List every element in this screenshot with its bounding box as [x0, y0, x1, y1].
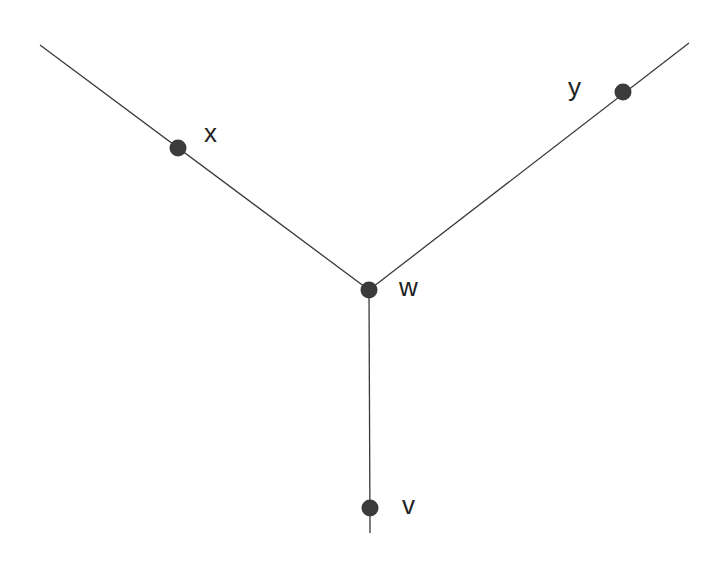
graph-diagram: x y w v [0, 0, 726, 578]
node-x [170, 140, 187, 157]
label-y: y [568, 72, 581, 102]
edge-w-to-right [369, 43, 689, 290]
node-v [362, 500, 379, 517]
label-w: w [398, 272, 418, 302]
edge-w-to-bottom [369, 290, 370, 533]
label-x: x [204, 118, 217, 148]
edge-left-to-w [40, 45, 369, 290]
node-y [615, 84, 632, 101]
label-v: v [402, 490, 415, 520]
node-w [361, 282, 378, 299]
